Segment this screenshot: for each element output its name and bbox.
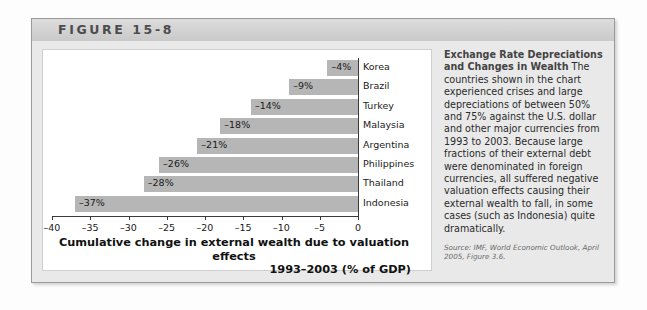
bar-category-label: Argentina: [363, 139, 409, 150]
bar-row: –28%Thailand: [43, 176, 433, 192]
bar-row: –4%Korea: [43, 60, 433, 76]
x-axis-tick-label: –30: [114, 222, 144, 233]
bar-value-label: –21%: [201, 139, 227, 150]
bar-value-label: –37%: [79, 197, 105, 208]
caption-column: Exchange Rate Depreciations and Changes …: [444, 49, 604, 262]
bar-category-label: Thailand: [363, 177, 404, 188]
chart-panel: –40–35–30–25–20–15–10–50–4%Korea–9%Brazi…: [42, 49, 432, 271]
bar-value-label: –26%: [163, 158, 189, 169]
bar-category-label: Korea: [363, 61, 390, 72]
bar-value-label: –28%: [148, 177, 174, 188]
x-axis-tick: [358, 216, 359, 220]
x-axis-title: Cumulative change in external wealth due…: [43, 236, 425, 277]
x-axis-title-line1: Cumulative change in external wealth due…: [59, 236, 409, 263]
bar-value-label: –14%: [255, 100, 281, 111]
bar-row: –14%Turkey: [43, 99, 433, 115]
bar-category-label: Turkey: [363, 100, 394, 111]
x-axis-tick: [243, 216, 244, 220]
figure-number-label: FIGURE 15-8: [58, 22, 174, 37]
x-axis-tick-label: –20: [190, 222, 220, 233]
x-axis-tick: [167, 216, 168, 220]
x-axis-tick: [90, 216, 91, 220]
x-axis-tick-label: –35: [75, 222, 105, 233]
bar-row: –9%Brazil: [43, 79, 433, 95]
bar-row: –18%Malaysia: [43, 118, 433, 134]
x-axis-tick-label: –25: [152, 222, 182, 233]
bar-category-label: Indonesia: [363, 197, 409, 208]
caption-source: Source: IMF, World Economic Outlook, Apr…: [444, 244, 604, 262]
caption-body-text: The countries shown in the chart experie…: [444, 61, 600, 233]
x-axis-tick: [52, 216, 53, 220]
bar-value-label: –4%: [331, 61, 351, 72]
bar-row: –26%Philippines: [43, 157, 433, 173]
caption-text: Exchange Rate Depreciations and Changes …: [444, 49, 604, 235]
figure-root: FIGURE 15-8 –40–35–30–25–20–15–10–50–4%K…: [0, 0, 647, 310]
bar: [144, 176, 358, 192]
x-axis-title-line2: 1993–2003 (% of GDP): [43, 263, 425, 277]
bar-row: –21%Argentina: [43, 138, 433, 154]
x-axis-tick-label: –5: [305, 222, 335, 233]
x-axis-tick-label: –15: [228, 222, 258, 233]
x-axis-tick: [129, 216, 130, 220]
bar-category-label: Philippines: [363, 158, 414, 169]
x-axis-tick: [320, 216, 321, 220]
bar-row: –37%Indonesia: [43, 196, 433, 212]
bar-value-label: –18%: [224, 119, 250, 130]
x-axis-tick-label: 0: [343, 222, 373, 233]
x-axis-tick-label: –10: [267, 222, 297, 233]
bar: [75, 196, 358, 212]
x-axis-tick-label: –40: [37, 222, 67, 233]
bar-value-label: –9%: [293, 80, 313, 91]
bar-category-label: Brazil: [363, 80, 390, 91]
x-axis-tick: [282, 216, 283, 220]
bar-category-label: Malaysia: [363, 119, 405, 130]
x-axis-tick: [205, 216, 206, 220]
